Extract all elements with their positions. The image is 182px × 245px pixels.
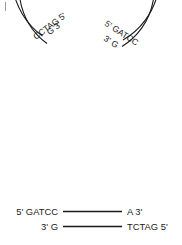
linear-fragment: 5' GATCC A 3' 3' G TCTAG 5' (16, 206, 168, 232)
linear-bottom-left-label: 3' G (41, 221, 58, 232)
linear-top-right-label: A 3' (127, 206, 143, 217)
diagram-canvas: G 3' CCTAG 5' 5' GATCC 3' G 5' GATCC A 3… (0, 0, 182, 245)
crop-mark-tick (5, 2, 6, 11)
linear-top-left-label: 5' GATCC (16, 206, 58, 217)
plasmid-labels: G 3' CCTAG 5' 5' GATCC 3' G (31, 10, 140, 50)
linear-bottom-right-label: TCTAG 5' (127, 221, 168, 232)
dna-diagram-figure: G 3' CCTAG 5' 5' GATCC 3' G 5' GATCC A 3… (0, 0, 182, 245)
